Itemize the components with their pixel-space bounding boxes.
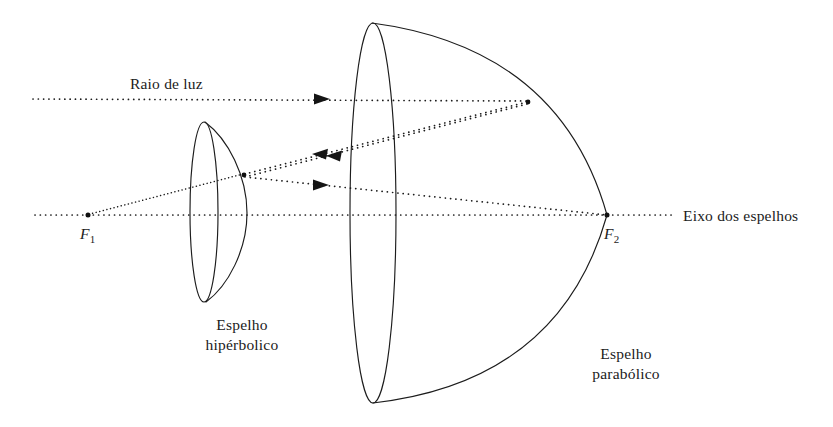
label-focus2-subscript: 2 [614,233,620,245]
incoming-light-ray [33,99,528,101]
reflected-ray-lower-arrow-icon [326,151,342,162]
ray-to-focus2 [245,177,607,215]
label-focus1-letter: F [80,225,90,242]
parabolic-mirror-rim [350,23,396,403]
reflection-point-on-parabola [526,100,531,105]
focus1-point [86,213,91,218]
label-hyperbolic-mirror: Espelho hipérbolico [182,315,302,355]
label-focus2: F2 [604,224,619,246]
hyperbolic-mirror-profile [205,122,247,302]
label-parabolic-mirror-line1: Espelho [566,344,686,364]
figure-canvas: Raio de luz Eixo dos espelhos Espelho hi… [0,0,833,427]
reflected-ray-upper [245,102,527,174]
parabolic-mirror-profile-upper [372,23,607,215]
focus2-point [605,213,610,218]
label-focus1: F1 [80,224,95,246]
label-hyperbolic-mirror-line1: Espelho [182,315,302,335]
ray-to-focus2-arrow-icon [313,180,329,191]
label-focus1-subscript: 1 [90,233,96,245]
label-light-ray: Raio de luz [130,74,203,94]
hyperbolic-mirror-rim [190,122,218,302]
label-hyperbolic-mirror-line2: hipérbolico [182,335,302,355]
label-parabolic-mirror-line2: parabólico [566,364,686,384]
reflected-ray-upper-arrow-icon [312,149,328,160]
label-optical-axis: Eixo dos espelhos [683,206,798,226]
virtual-ray-to-focus1 [90,174,243,214]
reflection-point-on-hyperbola [242,173,247,178]
incoming-ray-arrow-icon [314,94,330,105]
label-parabolic-mirror: Espelho parabólico [566,344,686,384]
label-focus2-letter: F [604,225,614,242]
reflected-ray-lower [245,104,527,177]
